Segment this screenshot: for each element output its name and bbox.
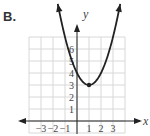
x-axis-left-arrow (18, 118, 26, 124)
y-axis-up-arrow (74, 24, 80, 32)
vertex-point (87, 83, 91, 87)
x-tick-label: 1 (87, 123, 92, 134)
curve-left-arrow (56, 4, 62, 12)
x-tick-label: −1 (60, 123, 71, 134)
x-tick-label: −3 (36, 123, 47, 134)
curve-right-arrow (116, 4, 122, 12)
y-tick-label: 4 (69, 68, 74, 79)
x-axis-right-arrow (134, 118, 142, 124)
x-axis-label: x (142, 114, 149, 128)
parabola-chart: −3−2−1123123456 x y (0, 0, 150, 136)
y-tick-label: 1 (69, 104, 74, 115)
x-tick-label: 3 (111, 123, 116, 134)
x-tick-label: −2 (48, 123, 59, 134)
x-tick-label: 2 (99, 123, 104, 134)
tick-labels: −3−2−1123123456 (36, 44, 116, 135)
y-tick-label: 2 (69, 92, 74, 103)
y-tick-label: 3 (69, 80, 74, 91)
y-axis-label: y (82, 7, 89, 21)
